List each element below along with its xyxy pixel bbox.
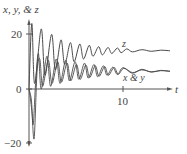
y-axis-label: x, y, & z (3, 4, 39, 15)
chart-plot-area (0, 0, 187, 154)
series-layer (29, 23, 170, 139)
y-tick-label-neg20: −20 (4, 138, 21, 149)
z-annotation: z (122, 38, 126, 49)
x-tick-label-10: 10 (117, 96, 128, 107)
y-axis-arrow-up (27, 19, 30, 25)
y-tick-label-20: 20 (11, 29, 22, 40)
series-z-line (29, 23, 170, 89)
y-tick-label-0: 0 (16, 84, 22, 95)
y-axis-arrow-down (27, 141, 30, 147)
xy-annotation: x & y (123, 72, 145, 83)
series-y-line (29, 58, 170, 139)
x-axis-arrow (167, 87, 173, 90)
x-axis-label: t (175, 84, 178, 95)
